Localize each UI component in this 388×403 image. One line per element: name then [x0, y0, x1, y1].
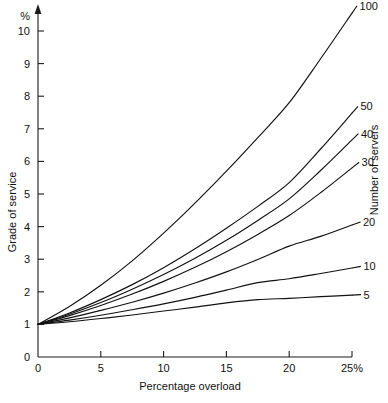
- series-curve-20: [38, 225, 352, 324]
- series-label-20: 20: [363, 216, 375, 228]
- y-tick-label: 10: [18, 25, 30, 37]
- x-tick-label: 10: [157, 362, 169, 374]
- x-tick-label: 0: [35, 362, 41, 374]
- series-leader-50: [352, 106, 358, 113]
- y-tick-label: 2: [24, 286, 30, 298]
- series-curve-5: [38, 295, 352, 324]
- series-leader-5: [352, 295, 361, 296]
- y-tick-label: 0: [24, 351, 30, 363]
- y-tick-label: 8: [24, 90, 30, 102]
- y-tick-label: 9: [24, 58, 30, 70]
- y-tick-label: 4: [24, 221, 30, 233]
- series-label-100: 100: [360, 0, 378, 12]
- series-curve-50: [38, 113, 352, 324]
- series-label-50: 50: [360, 100, 372, 112]
- x-tick-label: 5: [98, 362, 104, 374]
- y-tick-label: 5: [24, 188, 30, 200]
- grade-of-service-chart: 012345678910%0510152025%10050403020105Pe…: [0, 0, 388, 403]
- chart-plot-area: 012345678910%0510152025%10050403020105Pe…: [0, 0, 388, 403]
- y-axis-title: Grade of service: [6, 172, 18, 253]
- series-leader-20: [352, 222, 361, 225]
- series-curve-30: [38, 168, 352, 324]
- x-tick-label: 15: [220, 362, 232, 374]
- chart-series-leader-lines: [352, 6, 361, 295]
- y-tick-label: 1: [24, 318, 30, 330]
- y-tick-label: 3: [24, 253, 30, 265]
- series-leader-10: [352, 266, 361, 268]
- x-tick-label: 20: [283, 362, 295, 374]
- series-leader-30: [352, 162, 359, 168]
- x-axis-title: Percentage overload: [139, 380, 241, 392]
- series-leader-100: [352, 6, 357, 13]
- chart-series-curves: [38, 13, 352, 324]
- series-leader-40: [352, 134, 358, 140]
- x-tick-label: 25%: [341, 362, 363, 374]
- y-axis-unit-mark: %: [20, 10, 30, 22]
- y-tick-label: 6: [24, 155, 30, 167]
- y-axis-arrowhead: [35, 4, 42, 14]
- chart-text-layer: 012345678910%0510152025%10050403020105Pe…: [6, 0, 380, 392]
- series-label-10: 10: [363, 260, 375, 272]
- y-tick-label: 7: [24, 123, 30, 135]
- legend-title: Number of servers: [368, 124, 380, 215]
- series-curve-100: [38, 13, 352, 324]
- chart-axes: [35, 4, 352, 357]
- series-label-5: 5: [364, 289, 370, 301]
